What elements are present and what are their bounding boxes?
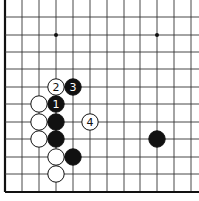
white-stone-2: 2 [48,79,64,95]
black-stone [65,149,81,165]
black-stone [48,131,64,147]
black-stone [48,114,64,130]
move-number: 4 [87,116,94,129]
black-stone [149,131,165,147]
move-number: 2 [53,81,60,94]
board-grid [5,0,199,192]
black-stone-3: 3 [65,79,81,95]
star-point [155,33,159,37]
star-point [54,33,58,37]
white-stone [31,96,47,112]
move-number: 1 [53,98,60,111]
stones: 2314 [31,79,165,182]
go-board: 2314 [0,0,199,201]
black-stone-1: 1 [48,96,64,112]
white-stone [48,166,64,182]
white-stone [48,149,64,165]
white-stone-4: 4 [82,114,98,130]
move-number: 3 [70,81,77,94]
white-stone [31,114,47,130]
white-stone [31,131,47,147]
